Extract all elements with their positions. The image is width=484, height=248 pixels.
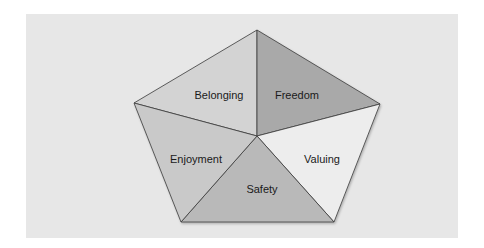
- label-valuing: Valuing: [304, 153, 340, 165]
- label-enjoyment: Enjoyment: [170, 153, 222, 165]
- pentagon-diagram: Belonging Freedom Valuing Safety Enjoyme…: [0, 0, 484, 248]
- label-freedom: Freedom: [275, 89, 319, 101]
- label-safety: Safety: [246, 183, 278, 195]
- label-belonging: Belonging: [195, 89, 244, 101]
